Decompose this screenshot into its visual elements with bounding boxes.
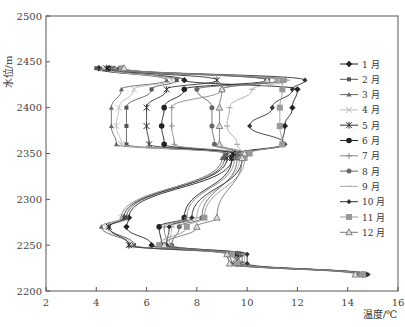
legend-label: 3 月 (362, 90, 380, 100)
x-tick-label: 4 (93, 297, 99, 308)
legend-item: 4 月 (340, 105, 380, 115)
legend-label: 9 月 (362, 182, 380, 192)
plot-frame (46, 16, 398, 291)
series-4 (101, 65, 363, 277)
legend-item: 6 月 (340, 136, 380, 146)
legend-label: 11 月 (362, 213, 385, 223)
legend-item: 9 月 (340, 182, 380, 192)
chart: 2468101214162200225023002350240024502500… (0, 0, 405, 327)
legend-label: 12 月 (362, 228, 385, 238)
series-6 (106, 65, 368, 277)
legend-label: 6 月 (362, 136, 380, 146)
x-tick-label: 16 (392, 297, 405, 308)
y-tick-label: 2300 (17, 194, 42, 205)
legend-label: 8 月 (362, 167, 380, 177)
legend-label: 4 月 (362, 105, 380, 115)
legend-item: 3 月 (340, 90, 380, 100)
x-tick-label: 2 (43, 297, 49, 308)
x-tick-label: 10 (241, 297, 254, 308)
y-tick-label: 2500 (17, 11, 42, 22)
y-tick-label: 2250 (17, 240, 42, 251)
x-tick-label: 6 (143, 297, 149, 308)
x-axis-title: 温度/℃ (363, 308, 398, 320)
legend-item: 1 月 (340, 60, 380, 70)
legend-label: 7 月 (362, 151, 380, 161)
x-tick-label: 8 (194, 297, 200, 308)
x-tick-label: 14 (341, 297, 354, 308)
legend-label: 10 月 (362, 197, 385, 207)
legend-item: 11 月 (340, 213, 385, 223)
series-11 (118, 65, 365, 277)
legend-item: 7 月 (340, 151, 380, 161)
y-axis-title: 水位/m (2, 55, 14, 88)
x-tick-label: 12 (291, 297, 304, 308)
legend-label: 2 月 (362, 75, 380, 85)
legend: 1 月2 月3 月4 月5 月6 月7 月8 月9 月10 月11 月12 月 (340, 60, 385, 238)
legend-item: 2 月 (340, 75, 380, 85)
series-3 (99, 66, 360, 277)
y-tick-label: 2450 (17, 56, 42, 67)
y-tick-label: 2400 (17, 102, 42, 113)
legend-item: 8 月 (340, 167, 380, 177)
legend-item: 10 月 (340, 197, 385, 207)
y-tick-label: 2350 (17, 148, 42, 159)
y-tick-label: 2200 (17, 286, 42, 297)
legend-label: 1 月 (362, 60, 380, 70)
legend-label: 5 月 (362, 121, 380, 131)
legend-item: 5 月 (340, 121, 380, 131)
legend-item: 12 月 (340, 228, 385, 238)
